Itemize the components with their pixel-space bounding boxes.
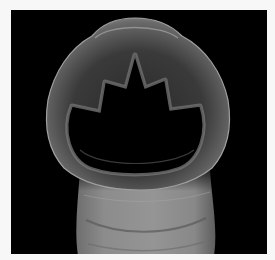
micrograph-frame (11, 10, 267, 254)
sem-micrograph (11, 10, 267, 254)
